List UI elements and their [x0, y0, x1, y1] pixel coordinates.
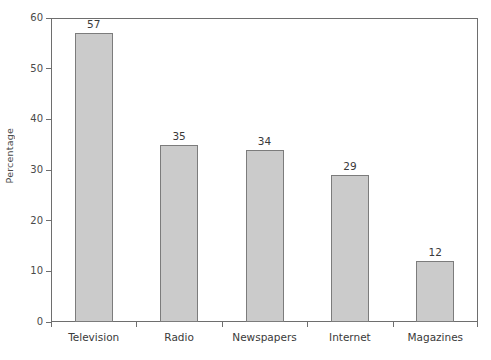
y-tick-mark	[46, 170, 51, 171]
y-tick-label: 40	[30, 112, 43, 125]
x-tick-mark	[477, 322, 478, 327]
y-tick-label: 10	[30, 264, 43, 277]
y-axis-title: Percentage	[4, 128, 18, 183]
y-tick-label: 0	[37, 315, 43, 328]
bar-value-label: 35	[149, 130, 209, 142]
x-axis-label: Magazines	[385, 330, 485, 344]
x-tick-mark	[222, 322, 223, 327]
y-tick-mark	[46, 68, 51, 69]
y-tick-mark	[46, 271, 51, 272]
bar	[416, 261, 454, 322]
x-tick-mark	[51, 322, 52, 327]
bar-chart: Percentage 0102030405060 5735342912 Tele…	[0, 0, 491, 360]
y-tick-label: 20	[30, 214, 43, 227]
x-tick-mark	[136, 322, 137, 327]
y-tick-label: 60	[30, 11, 43, 24]
bar-value-label: 34	[235, 135, 295, 147]
bar-value-label: 57	[64, 18, 124, 30]
bar	[160, 145, 198, 322]
y-tick-label: 30	[30, 163, 43, 176]
x-tick-mark	[307, 322, 308, 327]
bar-value-label: 29	[320, 160, 380, 172]
y-tick-mark	[46, 119, 51, 120]
y-tick-label: 50	[30, 62, 43, 75]
y-tick-mark	[46, 220, 51, 221]
bar-value-label: 12	[405, 246, 465, 258]
bar	[75, 33, 113, 322]
bar	[331, 175, 369, 322]
x-tick-mark	[393, 322, 394, 327]
bar	[246, 150, 284, 322]
y-tick-mark	[46, 18, 51, 19]
